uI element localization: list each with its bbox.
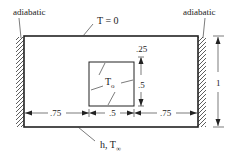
svg-text:.75: .75 (160, 108, 172, 118)
total-height-dimension: 1 (213, 36, 224, 127)
svg-text:1: 1 (216, 78, 221, 88)
inner-temperature-label: To (105, 76, 115, 90)
adiabatic-left-leader (19, 18, 21, 38)
bottom-boundary-leader (78, 127, 95, 141)
top-boundary-leader (83, 24, 93, 36)
svg-text:.5: .5 (138, 80, 145, 90)
adiabatic-right-label: adiabatic (183, 7, 215, 17)
right-adiabatic-wall (198, 37, 206, 127)
top-boundary-label: T = 0 (97, 15, 119, 26)
horizontal-dimensions: .75 .5 .75 (25, 108, 197, 118)
svg-text:.5: .5 (109, 108, 116, 118)
vertical-dimension-inner: .25 .5 (136, 44, 148, 106)
adiabatic-left-label: adiabatic (13, 7, 45, 17)
svg-text:.25: .25 (136, 44, 148, 54)
adiabatic-right-leader (203, 18, 205, 38)
heat-conduction-diagram: To adiabatic adiabatic T = 0 h, T∞ .25 .… (0, 0, 234, 158)
bottom-boundary-label: h, T∞ (100, 139, 121, 153)
left-adiabatic-wall (16, 37, 24, 127)
svg-text:.75: .75 (50, 108, 62, 118)
